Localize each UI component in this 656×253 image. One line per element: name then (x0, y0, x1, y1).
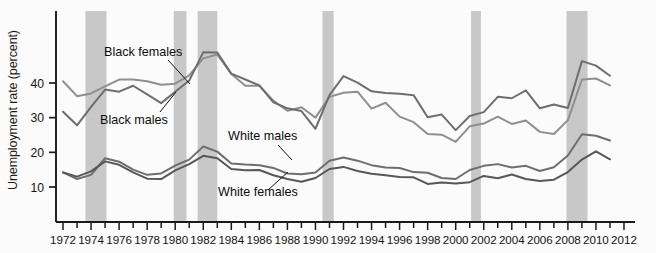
x-tick-label: 1980 (162, 233, 188, 246)
x-tick-label: 1990 (303, 233, 329, 246)
x-tick-label: 1998 (415, 233, 441, 246)
x-tick-label: 1978 (134, 233, 160, 246)
x-tick-label: 1984 (218, 233, 244, 246)
white-males-label: White males (228, 129, 297, 143)
y-tick-label: 20 (30, 146, 44, 160)
x-tick-label: 1994 (359, 233, 385, 246)
x-tick-label: 2002 (471, 233, 497, 246)
x-tick-label: 2008 (555, 233, 581, 246)
x-tick-label: 1972 (50, 233, 76, 246)
y-tick-label: 10 (30, 181, 44, 195)
x-tick-label: 1976 (106, 233, 132, 246)
x-tick-label: 2012 (611, 233, 637, 246)
x-tick-label: 2010 (583, 233, 609, 246)
series-line (63, 55, 610, 142)
black-females-label: Black females (104, 45, 182, 59)
black-males-label: Black males (100, 113, 168, 127)
y-tick-label: 30 (30, 111, 44, 125)
y-tick-group: 10203040 (30, 77, 56, 195)
x-tick-label: 2006 (527, 233, 553, 246)
x-tick-group: 1972197419761978198019821984198619881990… (50, 222, 637, 246)
y-tick-label: 40 (30, 77, 44, 91)
x-tick-label: 1986 (246, 233, 272, 246)
x-tick-label: 2000 (443, 233, 469, 246)
x-tick-label: 1988 (275, 233, 301, 246)
chart-canvas: 10203040 1972197419761978198019821984198… (0, 0, 656, 253)
recession-band (471, 11, 481, 222)
unemployment-rate-chart: Unemployment rate (percent) 10203040 197… (0, 0, 656, 253)
recession-band (174, 11, 187, 222)
recession-band (198, 11, 218, 222)
x-tick-label: 1982 (190, 233, 216, 246)
white-females-label: White females (218, 185, 298, 199)
series-line (63, 134, 610, 179)
x-tick-label: 1996 (387, 233, 413, 246)
x-tick-label: 1974 (78, 233, 104, 246)
annotation-leader-line (278, 145, 292, 160)
x-tick-label: 1992 (331, 233, 357, 246)
recession-band (322, 11, 333, 222)
x-tick-label: 2004 (499, 233, 525, 246)
